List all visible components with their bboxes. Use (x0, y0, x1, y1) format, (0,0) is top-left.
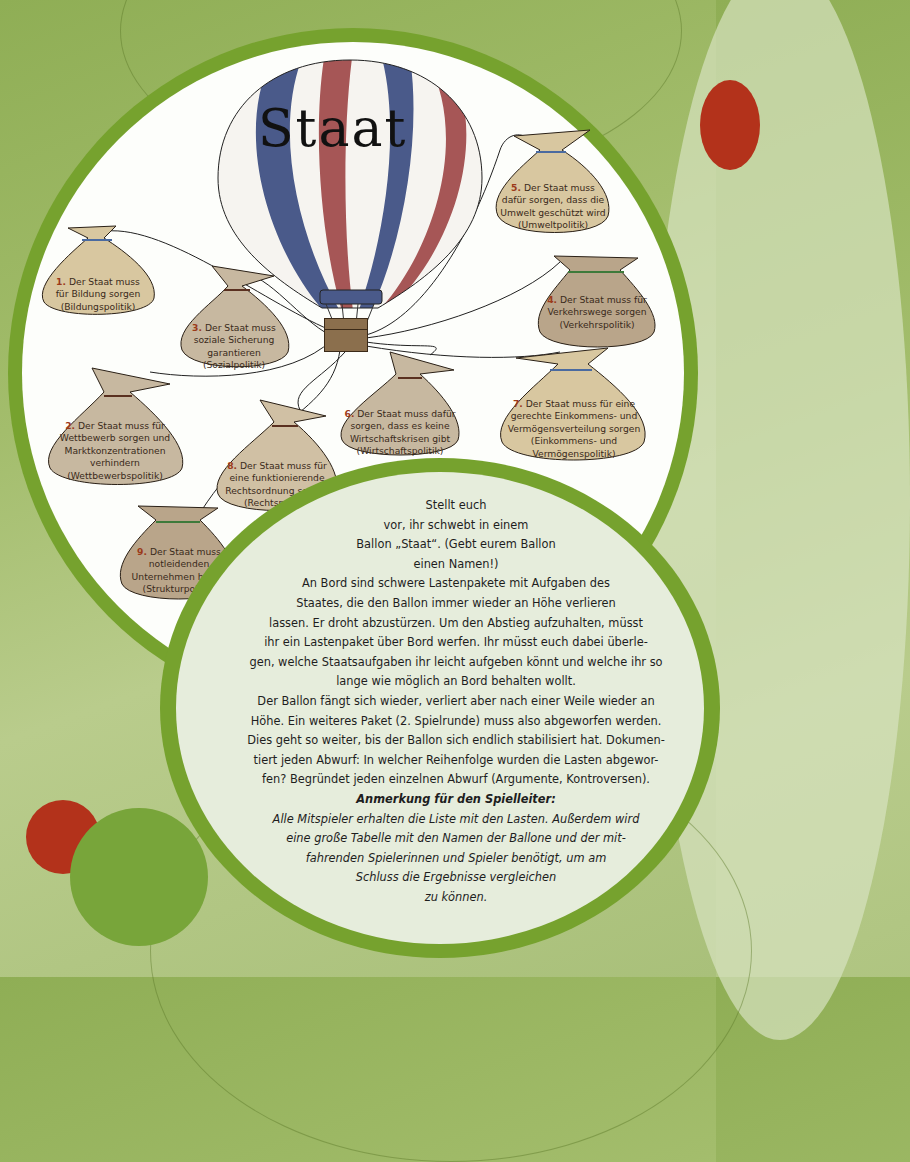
instruction-line: Der Ballon fängt sich wieder, verliert a… (226, 692, 686, 712)
note-line: Schluss die Ergebnisse vergleichen (226, 868, 686, 888)
instruction-line: Dies geht so weiter, bis der Ballon sich… (226, 731, 686, 751)
instruction-line: gen, welche Staatsaufgaben ihr leicht au… (226, 653, 686, 673)
balloon-title: Staat (258, 98, 407, 158)
note-line: eine große Tabelle mit den Namen der Bal… (226, 829, 686, 849)
instruction-line: Staates, die den Ballon immer wieder an … (226, 594, 686, 614)
instruction-line: vor, ihr schwebt in einem (226, 516, 686, 536)
instruction-line: lassen. Er droht abzustürzen. Um den Abs… (226, 614, 686, 634)
note-line: zu können. (226, 888, 686, 908)
balloon-basket (324, 318, 368, 352)
instruction-line: An Bord sind schwere Lastenpakete mit Au… (226, 574, 686, 594)
sack-6: 6. Der Staat muss dafür sorgen, dass es … (336, 350, 464, 462)
note-line: fahrenden Spielerinnen und Spieler benöt… (226, 849, 686, 869)
note-line: Alle Mitspieler erhalten die Liste mit d… (226, 810, 686, 830)
sack-3: 3. Der Staat muss soziale Sicherunggaran… (176, 264, 292, 374)
sack-4: 4. Der Staat muss für Verkehrswege sorge… (534, 254, 660, 354)
sack-7: 7. Der Staat muss für eine gerechte Eink… (496, 346, 652, 470)
instruction-line: lange wie möglich an Bord behalten wollt… (226, 672, 686, 692)
sack-1: 1. Der Staat muss für Bildung sorgen(Bil… (36, 222, 160, 322)
instruction-line: fen? Begründet jeden einzelnen Abwurf (A… (226, 770, 686, 790)
note-title: Anmerkung für den Spielleiter: (226, 790, 686, 810)
sack-2: 2. Der Staat muss für Wettbewerb sorgen … (42, 366, 188, 492)
instruction-line: Ballon „Staat“. (Gebt eurem Ballon (226, 535, 686, 555)
instruction-line: ihr ein Lastenpaket über Bord werfen. Ih… (226, 633, 686, 653)
instruction-text: Stellt euch vor, ihr schwebt in einem Ba… (226, 496, 686, 907)
instruction-line: tiert jeden Abwurf: In welcher Reihenfol… (226, 751, 686, 771)
sack-5: 5. Der Staat muss dafür sorgen, dass die… (490, 128, 616, 240)
instruction-line: Stellt euch (226, 496, 686, 516)
instruction-line: Höhe. Ein weiteres Paket (2. Spielrunde)… (226, 712, 686, 732)
instruction-line: einen Namen!) (226, 555, 686, 575)
